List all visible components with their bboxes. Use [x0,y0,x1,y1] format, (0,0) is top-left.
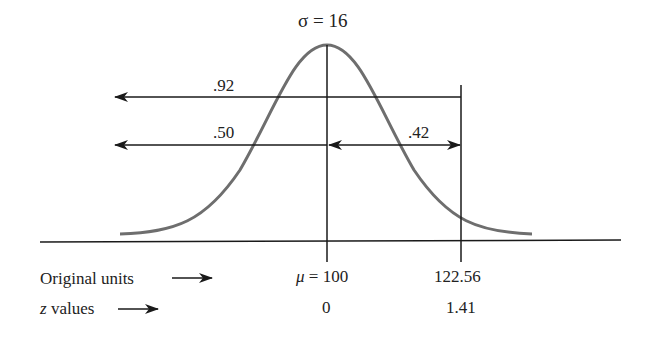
area-92-label: .92 [213,77,234,94]
z-values-text: values [51,299,94,318]
mu-value: = 100 [309,267,348,286]
sigma-value: = 16 [313,10,347,31]
area-50-label: .50 [213,124,234,141]
z-value-label: 1.41 [446,299,476,316]
normal-curve [120,45,532,234]
z-mean-label: 0 [322,299,331,316]
z-values-label: z values [40,300,94,317]
sigma-label: σ = 16 [298,11,347,30]
sigma-symbol: σ [298,10,308,31]
area-42-label: .42 [408,124,429,141]
mean-value-label: μ = 100 [296,268,348,285]
z-symbol: z [40,299,47,318]
normal-curve-diagram [0,0,655,344]
original-units-label: Original units [40,270,134,287]
x-value-label: 122.56 [434,268,481,285]
baseline-axis [40,240,621,242]
mu-symbol: μ [296,267,305,286]
